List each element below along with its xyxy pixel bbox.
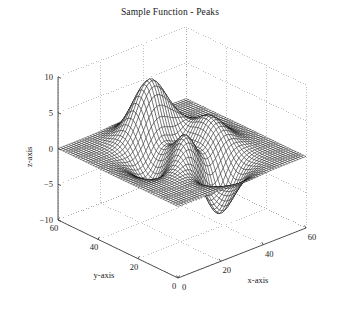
x-tick-label-2: 40 — [265, 249, 274, 259]
z-tick-label-3: 5 — [49, 108, 53, 118]
y-tick-label-1: 20 — [130, 262, 139, 272]
surface-mesh — [58, 79, 306, 213]
y-tick-label-0: 0 — [172, 281, 176, 291]
surface-plot — [0, 0, 340, 317]
x-axis-label: x-axis — [248, 275, 269, 285]
z-axis-label: z-axis — [24, 146, 34, 166]
z-tick-label-1: −5 — [44, 179, 53, 189]
y-tick-label-3: 60 — [50, 223, 59, 233]
z-tick-label-2: 0 — [49, 144, 53, 154]
x-tick-label-1: 20 — [222, 265, 231, 275]
y-axis-label: y-axis — [94, 270, 115, 280]
z-tick-label-4: 10 — [45, 72, 54, 82]
figure-panel: Sample Function - Peaks −10−505100204060… — [0, 0, 340, 317]
y-tick-label-2: 40 — [90, 242, 99, 252]
x-tick-label-0: 0 — [182, 282, 186, 292]
x-tick-label-3: 60 — [308, 232, 317, 242]
